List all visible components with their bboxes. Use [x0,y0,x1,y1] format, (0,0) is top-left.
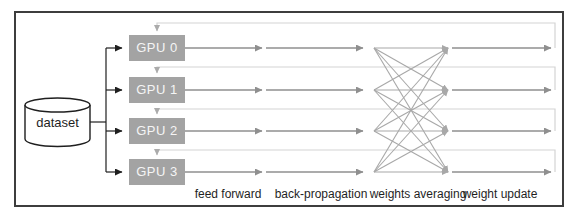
diagram-canvas: GPU 0 GPU 1 GPU 2 GPU 3 dataset feed for… [0,0,580,222]
stage-label-weight-update: weight update [463,187,538,201]
stage-label-back-propagation: back-propagation [275,187,368,201]
gpu-box-1: GPU 1 [129,77,185,103]
stage-label-weights-averaging: weights averaging [370,187,467,201]
stage-label-feed-forward: feed forward [195,187,262,201]
gpu-box-0: GPU 0 [129,35,185,61]
gpu-box-3: GPU 3 [129,159,185,185]
gpu-box-2: GPU 2 [129,118,185,144]
dataset-cylinder-top [25,98,90,112]
dataset-label: dataset [25,115,90,130]
